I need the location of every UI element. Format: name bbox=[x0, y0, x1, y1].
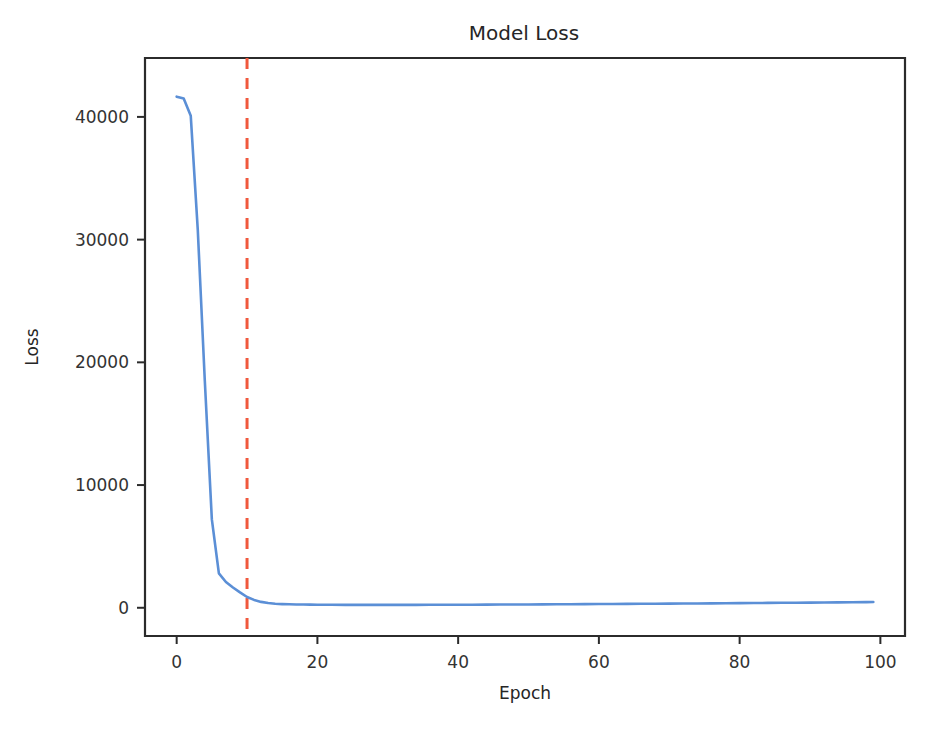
x-axis-label: Epoch bbox=[499, 683, 551, 703]
x-tick-label: 100 bbox=[864, 652, 896, 672]
chart-title: Model Loss bbox=[469, 21, 579, 45]
y-tick-label: 20000 bbox=[75, 352, 129, 372]
y-axis-label: Loss bbox=[22, 328, 42, 365]
x-tick-label: 60 bbox=[588, 652, 610, 672]
x-tick-label: 0 bbox=[171, 652, 182, 672]
x-tick-label: 40 bbox=[447, 652, 469, 672]
x-tick-label: 80 bbox=[729, 652, 751, 672]
y-tick-label: 10000 bbox=[75, 475, 129, 495]
x-tick-label: 20 bbox=[307, 652, 329, 672]
chart-figure: Model Loss 020406080100 0100002000030000… bbox=[0, 0, 939, 742]
y-tick-label: 40000 bbox=[75, 107, 129, 127]
plot-background bbox=[145, 58, 905, 636]
y-tick-label: 0 bbox=[118, 598, 129, 618]
plot-area: 020406080100 010000200003000040000 bbox=[75, 58, 905, 672]
model-loss-line-chart: Model Loss 020406080100 0100002000030000… bbox=[0, 0, 939, 742]
y-tick-label: 30000 bbox=[75, 230, 129, 250]
